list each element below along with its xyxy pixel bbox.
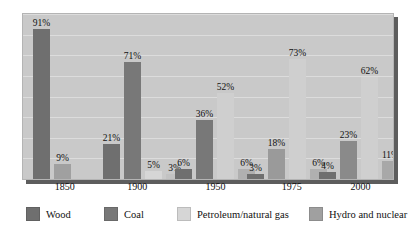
bar [103, 144, 120, 179]
legend-swatch-icon [309, 207, 323, 221]
bar-value-label: 21% [103, 133, 120, 143]
bar-value-label: 23% [340, 130, 357, 140]
bar-value-label: 62% [361, 66, 378, 76]
bar-value-label: 9% [56, 153, 69, 163]
bar-value-label: 11% [382, 150, 394, 160]
legend-label: Petroleum/natural gas [197, 209, 289, 220]
bar-value-label: 71% [124, 51, 141, 61]
legend-swatch-icon [104, 207, 118, 221]
plot-area: 91%9%21%71%5%3%6%36%52%6%3%18%73%6%4%23%… [22, 13, 394, 180]
bar-value-label: 18% [268, 138, 285, 148]
legend-item-wood[interactable]: Wood [26, 207, 71, 221]
legend-item-coal[interactable]: Coal [104, 207, 144, 221]
bar [54, 164, 71, 179]
bar-value-label: 91% [33, 18, 50, 28]
legend-item-petroleum-natural-gas[interactable]: Petroleum/natural gas [177, 207, 289, 221]
bar [247, 174, 264, 179]
bar [268, 149, 285, 179]
legend-label: Wood [46, 209, 71, 220]
bar [124, 62, 141, 179]
bar [33, 29, 50, 179]
bar [289, 59, 306, 179]
legend-label: Hydro and nuclear [329, 209, 407, 220]
bar-value-label: 5% [147, 160, 160, 170]
x-tick-label: 2000 [351, 181, 371, 192]
x-tick-label: 1975 [282, 181, 302, 192]
bars-layer: 91%9%21%71%5%3%6%36%52%6%3%18%73%6%4%23%… [23, 14, 393, 179]
bar [175, 169, 192, 179]
legend-item-hydro-and-nuclear[interactable]: Hydro and nuclear [309, 207, 407, 221]
legend-swatch-icon [26, 207, 40, 221]
bar-value-label: 4% [321, 161, 334, 171]
legend-label: Coal [124, 209, 144, 220]
x-axis-tick-labels: 18501900195019752000 [22, 181, 394, 197]
legend-swatch-icon [177, 207, 191, 221]
bar [382, 161, 394, 179]
bar [145, 171, 162, 179]
x-tick-label: 1850 [55, 181, 75, 192]
bar-value-label: 36% [196, 109, 213, 119]
bar-value-label: 73% [289, 48, 306, 58]
chart-legend: WoodCoalPetroleum/natural gasHydro and n… [22, 205, 412, 227]
bar [217, 93, 234, 179]
bar [361, 77, 378, 179]
bar-value-label: 6% [177, 158, 190, 168]
energy-sources-bar-chart: 91%9%21%71%5%3%6%36%52%6%3%18%73%6%4%23%… [0, 0, 419, 238]
bar-value-label: 52% [217, 82, 234, 92]
bar [319, 172, 336, 179]
x-tick-label: 1950 [205, 181, 225, 192]
bar-value-label: 3% [249, 163, 262, 173]
bar [340, 141, 357, 179]
bar [196, 120, 213, 179]
x-tick-label: 1900 [127, 181, 147, 192]
